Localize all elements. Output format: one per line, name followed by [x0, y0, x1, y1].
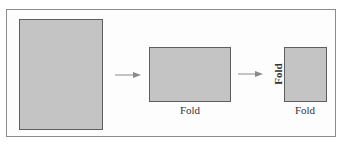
- sheet-folded-once: [149, 47, 231, 102]
- unfolded-sheet: [19, 19, 103, 130]
- sheet-folded-twice: [284, 47, 327, 102]
- arrow-right-icon: [238, 70, 263, 78]
- fold-label-side: Fold: [272, 54, 284, 94]
- arrow-right-icon: [115, 71, 141, 79]
- fold-label-bottom: Fold: [170, 104, 210, 116]
- fold-label-bottom-2: Fold: [285, 104, 325, 116]
